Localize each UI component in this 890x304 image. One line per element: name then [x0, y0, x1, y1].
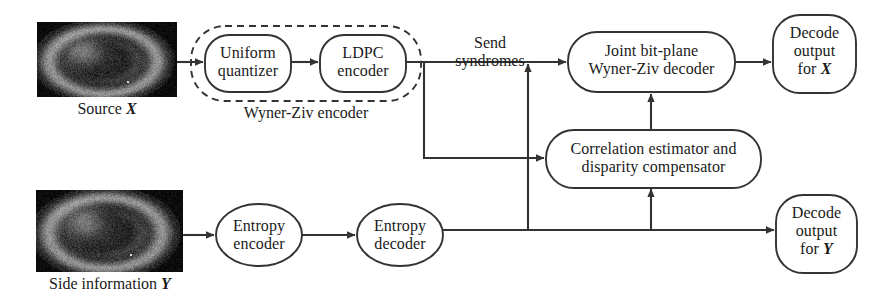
source-image: [37, 22, 177, 97]
node-shape-uniform-quantizer[interactable]: [205, 35, 291, 92]
source-image-caption: Source X: [37, 100, 177, 118]
branch-ldpc-to-correlation-estimator: [424, 62, 544, 158]
side-info-caption-text: Side information: [49, 275, 161, 292]
node-shape-entropy-decoder[interactable]: [357, 204, 443, 266]
node-shape-correlation-estimator[interactable]: [546, 130, 761, 188]
node-shape-entropy-encoder[interactable]: [216, 204, 302, 266]
node-shape-decode-output-for-x[interactable]: [773, 15, 856, 93]
wyner-ziv-encoder-group-label: Wyner-Ziv encoder: [191, 104, 421, 122]
diagram-canvas: Source X Side information Y Uniform quan…: [0, 0, 890, 304]
source-caption-text: Source: [77, 100, 125, 117]
side-info-caption-symbol: Y: [161, 275, 171, 292]
node-shape-joint-bit-plane-wyner-ziv-decoder[interactable]: [568, 32, 735, 92]
node-shape-ldpc-encoder[interactable]: [320, 35, 406, 92]
send-syndromes-line-2: syndromes: [437, 52, 543, 70]
side-information-image: [36, 190, 183, 272]
send-syndromes-line-1: Send: [437, 34, 543, 52]
side-information-image-caption: Side information Y: [10, 275, 210, 293]
node-shape-decode-output-for-y[interactable]: [776, 195, 857, 273]
send-syndromes-label: Send syndromes: [437, 34, 543, 71]
source-caption-symbol: X: [126, 100, 137, 117]
